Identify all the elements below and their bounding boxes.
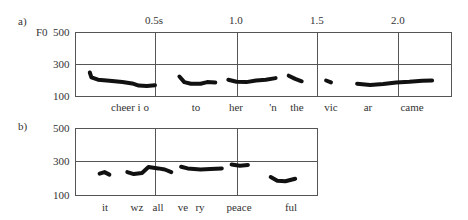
f0-trace [326, 81, 331, 83]
panel-a-ytick-500: 500 [53, 26, 70, 38]
panel-b-label: b) [18, 120, 28, 133]
panel-a-f0-traces [90, 73, 432, 87]
f0-trace [181, 167, 222, 170]
panel-a-ytick-100: 100 [53, 90, 70, 102]
f0-trace [100, 172, 110, 175]
f0-trace [357, 81, 432, 86]
word-label: all [153, 201, 164, 213]
word-label: to [192, 101, 201, 113]
panel-a-ylabel: F0 [36, 26, 48, 38]
panel-b-f0-traces [100, 165, 296, 182]
panel-a: a) F0 500 300 100 0.5s 1.0 1.5 2.0 cheer… [18, 14, 452, 113]
panel-a-word-labels: cheer i otoher'nthevicarcame [111, 101, 424, 113]
f0-trace [228, 78, 275, 82]
word-label: the [290, 101, 304, 113]
word-label: peace [226, 201, 251, 213]
word-label: ful [285, 201, 297, 213]
panel-a-ytick-300: 300 [53, 58, 70, 70]
panel-b-ytick-500: 500 [53, 122, 70, 134]
word-label: cheer i o [111, 101, 149, 113]
word-label: ry [195, 201, 205, 213]
word-label: her [229, 101, 243, 113]
f0-trace [232, 165, 248, 166]
word-label: came [400, 101, 423, 113]
f0-contour-figure: a) F0 500 300 100 0.5s 1.0 1.5 2.0 cheer… [0, 0, 468, 220]
panel-b-ytick-100: 100 [53, 189, 70, 201]
panel-a-xtick-1: 1.0 [229, 14, 243, 26]
panel-a-xtick-0: 0.5s [145, 14, 163, 26]
f0-trace [179, 77, 215, 84]
word-label: 'n [269, 101, 277, 113]
panel-b-word-labels: itwzallverypeaceful [102, 201, 297, 213]
panel-a-label: a) [18, 15, 27, 28]
word-label: wz [131, 201, 144, 213]
word-label: ve [178, 201, 189, 213]
panel-b: b) 500 300 100 itwzallverypeaceful [18, 120, 318, 213]
f0-trace [289, 76, 302, 82]
word-label: ar [364, 101, 373, 113]
panel-a-xtick-3: 2.0 [391, 14, 405, 26]
f0-trace [271, 177, 296, 181]
word-label: vic [324, 101, 338, 113]
word-label: it [102, 201, 108, 213]
panel-b-ytick-300: 300 [53, 155, 70, 167]
f0-trace [127, 167, 171, 174]
f0-trace [90, 73, 155, 87]
panel-a-xtick-2: 1.5 [310, 14, 324, 26]
